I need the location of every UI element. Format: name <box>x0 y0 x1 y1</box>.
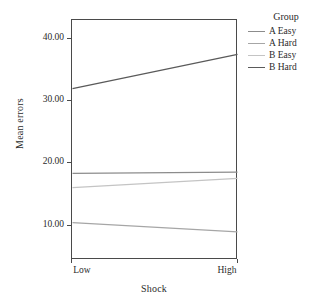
series-line-b-easy <box>73 178 238 187</box>
series-lines <box>72 20 238 260</box>
y-tick-label-10: 10.00 <box>20 219 64 229</box>
legend: Group A EasyA HardB EasyB Hard <box>248 11 316 73</box>
y-axis-tick-labels: 10.0020.0030.0040.00 <box>16 0 64 307</box>
legend-item-a-easy[interactable]: A Easy <box>248 25 316 37</box>
legend-item-a-hard[interactable]: A Hard <box>248 37 316 49</box>
legend-swatch-icon <box>248 55 265 56</box>
series-line-a-hard <box>73 223 238 232</box>
legend-swatch-icon <box>248 43 265 44</box>
plot-area <box>71 19 237 259</box>
y-tick-label-20: 20.00 <box>20 156 64 166</box>
x-tick-label-high: High <box>205 265 249 275</box>
legend-item-label: B Easy <box>269 50 296 60</box>
x-tick-label-low: Low <box>60 265 104 275</box>
y-tick-label-30: 30.00 <box>20 94 64 104</box>
line-chart-figure: Mean errors 10.0020.0030.0040.00 Low Hig… <box>0 0 316 307</box>
y-tick-label-40: 40.00 <box>20 32 64 42</box>
legend-item-label: B Hard <box>269 62 297 72</box>
series-line-b-hard <box>73 54 238 88</box>
legend-swatch-icon <box>248 31 265 32</box>
series-line-a-easy <box>73 172 238 173</box>
legend-items: A EasyA HardB EasyB Hard <box>248 25 316 73</box>
x-axis-title: Shock <box>71 283 237 294</box>
legend-item-b-easy[interactable]: B Easy <box>248 49 316 61</box>
legend-swatch-icon <box>248 67 265 68</box>
legend-item-b-hard[interactable]: B Hard <box>248 61 316 73</box>
legend-title: Group <box>248 11 316 22</box>
legend-item-label: A Hard <box>269 38 297 48</box>
legend-item-label: A Easy <box>269 26 296 36</box>
